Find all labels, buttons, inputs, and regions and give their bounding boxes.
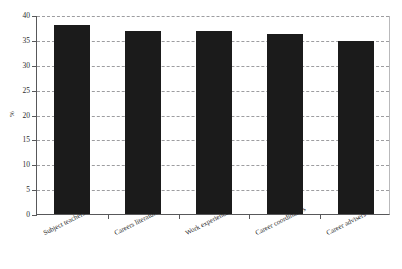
y-axis-title: %	[8, 106, 16, 122]
y-axis-tick-label: 25	[23, 87, 31, 95]
y-axis-tick-label: 15	[23, 136, 31, 144]
y-axis-tick-label: 20	[23, 112, 31, 120]
y-axis-tick-label: 5	[26, 186, 30, 194]
y-axis-tick-label: 40	[23, 12, 31, 20]
plot-area: 0510152025303540	[36, 16, 390, 215]
bar-chart: % 0510152025303540 Subject teachersCaree…	[0, 0, 402, 269]
y-axis-tick-label: 35	[23, 37, 31, 45]
y-axis-tick-label: 10	[23, 161, 31, 169]
y-axis-tick-label: 0	[26, 211, 30, 219]
x-axis-ticks	[37, 16, 389, 214]
y-axis-tick-label: 30	[23, 62, 31, 70]
category-labels: Subject teachersCareers literatureWork e…	[36, 216, 402, 269]
